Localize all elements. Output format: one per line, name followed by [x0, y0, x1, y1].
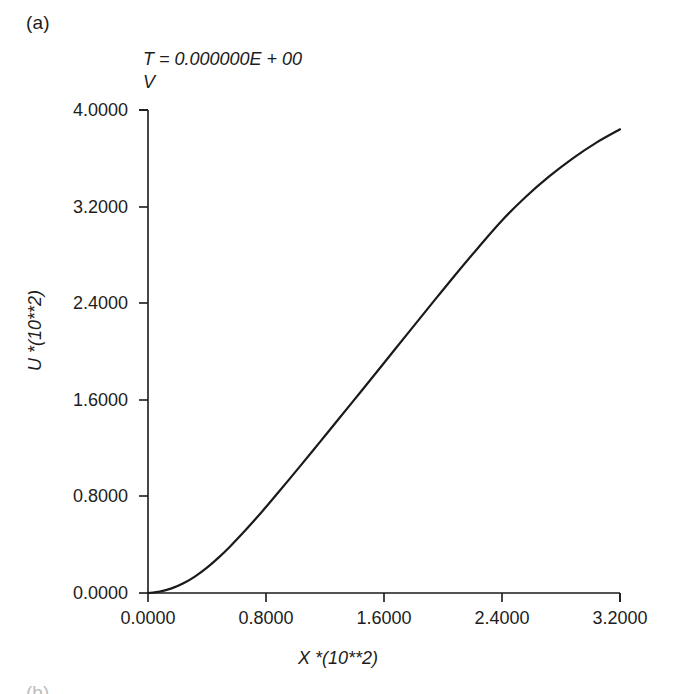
data-series-line: [148, 129, 620, 593]
x-tick-label-0: 0.0000: [93, 608, 203, 629]
x-axis-title-text: X *(10**2): [298, 648, 378, 668]
y-tick-marks: [139, 110, 148, 593]
x-tick-label-2: 1.6000: [329, 608, 439, 629]
figure-panel-a: (a) T = 0.000000E + 00 V 4.0000 3.2: [0, 0, 676, 694]
y-tick-label-4: 3.2000: [38, 197, 128, 218]
y-axis-title: U *(10**2): [25, 231, 46, 431]
x-tick-label-1: 0.8000: [211, 608, 321, 629]
y-tick-label-1: 0.8000: [38, 486, 128, 507]
x-tick-label-4: 3.2000: [565, 608, 675, 629]
next-panel-label: (b): [26, 682, 49, 694]
axes-group: [139, 110, 620, 602]
y-tick-label-5: 4.0000: [38, 100, 128, 121]
y-axis-title-text: U *(10**2): [25, 290, 45, 371]
x-axis-title: X *(10**2): [0, 648, 676, 669]
y-tick-label-3: 2.4000: [38, 293, 128, 314]
y-tick-label-2: 1.6000: [38, 390, 128, 411]
x-tick-label-3: 2.4000: [447, 608, 557, 629]
x-tick-marks: [148, 593, 620, 602]
y-tick-label-0: 0.0000: [38, 583, 128, 604]
